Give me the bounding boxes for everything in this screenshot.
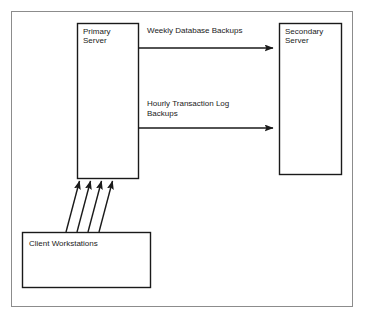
diagram-canvas: Primary Server Secondary Server Client W… [0, 0, 366, 318]
hourly-transaction-log-backups-label-line2: Backups [147, 109, 178, 119]
secondary-server-box[interactable] [280, 24, 342, 175]
client-connection-arrow-3 [88, 181, 102, 232]
primary-server-box[interactable] [78, 24, 139, 179]
secondary-server-label-line2: Server [285, 36, 309, 46]
client-connection-arrow-4 [99, 181, 113, 232]
client-workstations-label: Client Workstations [29, 239, 98, 249]
hourly-transaction-log-backups-label-line1: Hourly Transaction Log [147, 99, 229, 109]
client-connection-arrow-2 [77, 181, 91, 232]
primary-server-label-line2: Server [83, 36, 107, 46]
weekly-database-backups-label: Weekly Database Backups [147, 26, 242, 36]
diagram-vector-layer [0, 0, 366, 318]
client-connection-arrow-1 [66, 181, 80, 232]
